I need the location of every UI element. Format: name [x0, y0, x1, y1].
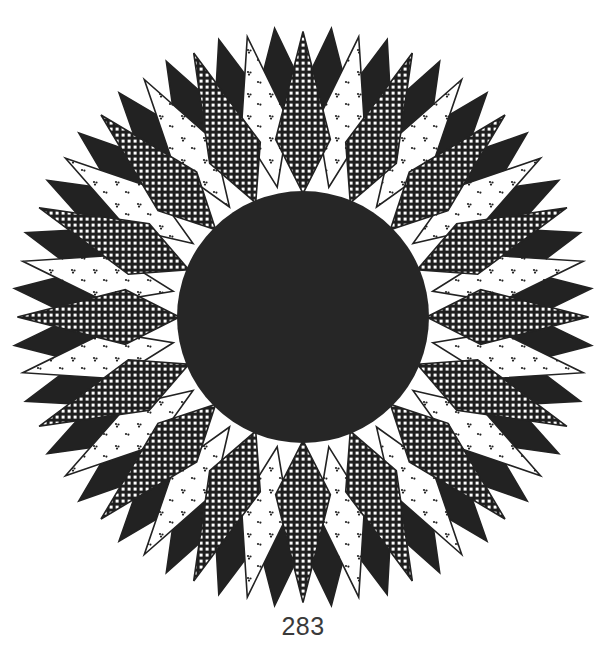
quilt-star-illustration	[0, 0, 606, 625]
center-dark-circle	[177, 191, 429, 443]
page-number: 283	[0, 612, 606, 641]
